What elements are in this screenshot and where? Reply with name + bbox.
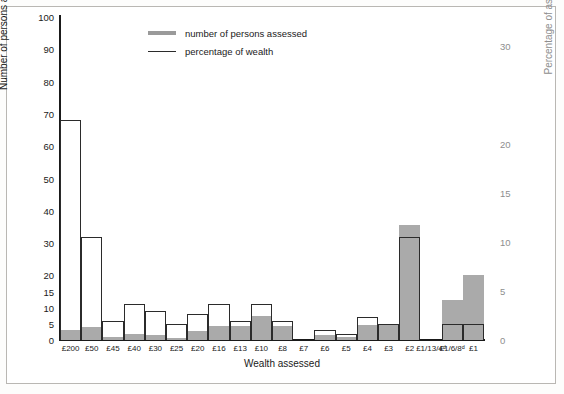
plot-area xyxy=(60,17,484,340)
y-axis-title-left: Number of persons assessed xyxy=(0,0,9,100)
y-tick-label-right: 0 xyxy=(500,335,505,346)
y-tick-label-right: 15 xyxy=(500,188,511,199)
bar-persons xyxy=(208,304,229,340)
bar-persons xyxy=(102,321,123,340)
bar-persons xyxy=(124,304,145,340)
legend-item-persons: number of persons assessed xyxy=(148,24,307,42)
bar-persons xyxy=(357,317,378,340)
y-tick-label-left: 0 xyxy=(28,335,54,346)
legend-item-wealth: percentage of wealth xyxy=(148,42,307,60)
bar-persons xyxy=(145,311,166,340)
bar-persons xyxy=(314,330,335,340)
legend-label-wealth: percentage of wealth xyxy=(185,46,273,57)
y-tick-label-left: 30 xyxy=(28,238,54,249)
x-tick-label: £1 xyxy=(455,344,491,353)
bar-persons xyxy=(81,237,102,340)
y-tick-label-left: 80 xyxy=(28,76,54,87)
legend-swatch-wealth-icon xyxy=(148,51,176,52)
y-tick-label-left: 70 xyxy=(28,108,54,119)
y-tick-label-left: 15 xyxy=(28,286,54,297)
y-tick-label-left: 10 xyxy=(28,302,54,313)
y-tick-label-right: 20 xyxy=(500,139,511,150)
chart-legend: number of persons assessed percentage of… xyxy=(148,24,307,60)
bar-persons xyxy=(378,324,399,340)
bar-persons xyxy=(399,237,420,340)
legend-swatch-persons-icon xyxy=(148,31,176,35)
bar-persons xyxy=(230,321,251,340)
bar-persons xyxy=(463,324,484,340)
bar-persons xyxy=(336,334,357,340)
bar-persons xyxy=(442,324,463,340)
bar-persons xyxy=(187,314,208,340)
bar-persons xyxy=(166,324,187,340)
y-tick-label-left: 40 xyxy=(28,205,54,216)
y-tick-label-left: 60 xyxy=(28,141,54,152)
bar-persons xyxy=(60,120,81,340)
y-tick-label-left: 50 xyxy=(28,173,54,184)
legend-label-persons: number of persons assessed xyxy=(185,28,307,39)
x-axis-title: Wealth assessed xyxy=(0,358,564,369)
y-tick-label-left: 20 xyxy=(28,270,54,281)
bar-persons xyxy=(251,304,272,340)
y-axis-title-right: Percentage of assessed wealth xyxy=(543,0,554,95)
y-tick-label-left: 100 xyxy=(28,12,54,23)
y-tick-label-right: 10 xyxy=(500,237,511,248)
figure: Number of persons assessed Percentage of… xyxy=(0,0,564,394)
bar-persons xyxy=(272,321,293,340)
y-tick-label-right: 5 xyxy=(500,286,505,297)
y-tick-label-left: 90 xyxy=(28,44,54,55)
y-tick-label-left: 5 xyxy=(28,318,54,329)
y-tick-label-right: 30 xyxy=(500,41,511,52)
